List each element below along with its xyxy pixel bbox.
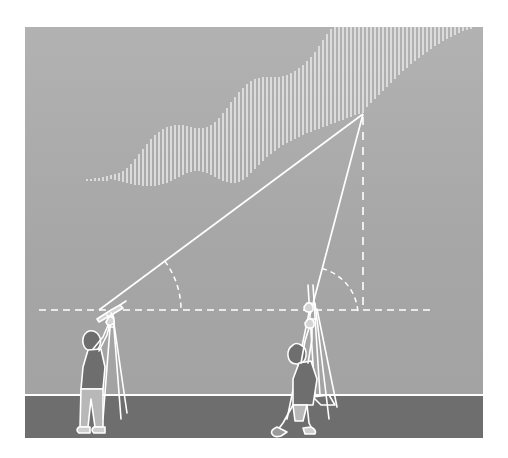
scene-svg	[25, 27, 483, 438]
surveying-illustration	[25, 27, 483, 438]
illustration-stage	[0, 0, 508, 458]
